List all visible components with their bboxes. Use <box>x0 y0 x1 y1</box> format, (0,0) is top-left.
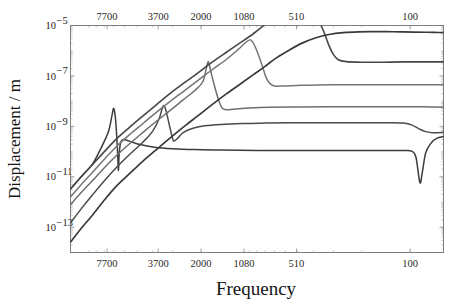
x-tick-label-bottom-100: 100 <box>402 258 418 269</box>
x-tick-label-bottom-3700: 3700 <box>148 258 169 269</box>
x-tick-label-top-7700: 7700 <box>97 11 118 22</box>
svg-text:10: 10 <box>46 222 57 233</box>
y-axis-title: Displacement / m <box>5 79 24 199</box>
x-tick-label-bottom-2000: 2000 <box>191 258 212 269</box>
x-tick-label-top-3700: 3700 <box>148 11 169 22</box>
x-tick-label-bottom-510: 510 <box>289 258 305 269</box>
svg-text:10: 10 <box>46 171 57 182</box>
svg-text:10: 10 <box>46 20 57 31</box>
svg-text:−7: −7 <box>57 65 68 76</box>
figure-background <box>0 0 455 304</box>
svg-text:−9: −9 <box>57 116 68 127</box>
x-tick-label-bottom-7700: 7700 <box>97 258 118 269</box>
x-tick-label-top-510: 510 <box>289 11 305 22</box>
x-axis-title: Frequency <box>216 278 297 299</box>
x-tick-label-top-2000: 2000 <box>191 11 212 22</box>
svg-text:10: 10 <box>46 71 57 82</box>
chart-figure: 7700370020001080510100 77003700200010805… <box>0 0 455 304</box>
x-tick-label-top-100: 100 <box>402 11 418 22</box>
svg-text:−5: −5 <box>57 15 68 26</box>
x-tick-label-top-1080: 1080 <box>234 11 255 22</box>
x-tick-label-bottom-1080: 1080 <box>234 258 255 269</box>
svg-text:10: 10 <box>46 121 57 132</box>
